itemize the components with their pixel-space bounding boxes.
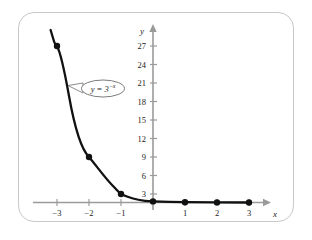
data-point (182, 199, 188, 205)
x-axis-label: x (272, 209, 277, 219)
exponential-decay-chart: −3 −2 −1 1 2 3 3 6 9 12 15 18 21 (0, 0, 312, 240)
y-tick-label: 12 (138, 134, 147, 144)
y-tick-label: 18 (138, 97, 147, 107)
x-tick-label: −1 (116, 208, 125, 218)
x-tick-label: 3 (247, 208, 251, 218)
y-tick-labels: 3 6 9 12 15 18 21 24 27 (138, 41, 147, 199)
x-tick-labels: −3 −2 −1 1 2 3 (52, 208, 251, 218)
x-tick-label: −2 (84, 208, 93, 218)
callout-equation-exponent: −x (109, 83, 116, 89)
data-point (246, 199, 252, 205)
equation-callout: y = 3−x (68, 80, 125, 97)
data-point (118, 191, 124, 197)
data-point (150, 198, 156, 204)
data-point (86, 154, 92, 160)
y-axis-label: y (139, 26, 144, 36)
x-axis-arrow-icon (263, 199, 271, 206)
figure-root: −3 −2 −1 1 2 3 3 6 9 12 15 18 21 (0, 0, 312, 240)
x-tick-label: −3 (52, 208, 61, 218)
y-tick-label: 27 (138, 41, 147, 51)
callout-equation-base: y = 3 (90, 84, 109, 94)
y-tick-label: 3 (142, 189, 146, 199)
data-point (214, 199, 220, 205)
y-tick-label: 21 (138, 78, 147, 88)
x-tick-label: 1 (183, 208, 187, 218)
y-tick-label: 9 (142, 152, 146, 162)
y-tick-label: 6 (142, 171, 146, 181)
data-point (54, 43, 60, 49)
y-axis-arrow-icon (149, 24, 156, 32)
callout-leader-icon (68, 83, 83, 93)
x-tick-label: 2 (215, 208, 219, 218)
axes-group (33, 24, 271, 210)
y-tick-label: 24 (138, 60, 147, 70)
y-tick-label: 15 (138, 115, 147, 125)
exponential-curve (51, 30, 249, 203)
